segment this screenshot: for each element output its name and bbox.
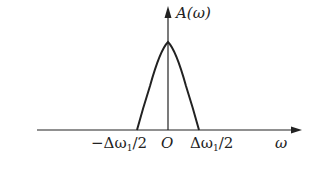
y-axis-label: A(ω) [176, 6, 211, 21]
tick-label-right: Δω1/2 [190, 136, 233, 153]
x-axis-label: ω [275, 136, 287, 151]
y-axis-arrow-icon [165, 6, 172, 18]
x-axis-arrow-icon [291, 127, 302, 134]
spectrum-diagram [0, 0, 311, 169]
origin-label: O [161, 136, 173, 151]
tick-label-left: −Δω1/2 [91, 136, 147, 153]
